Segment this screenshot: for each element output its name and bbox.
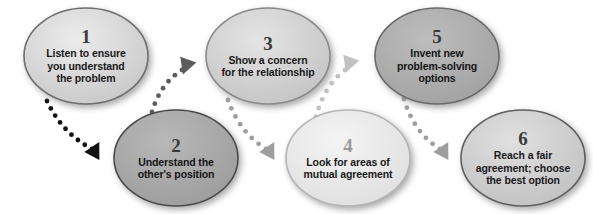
connector-dot	[412, 121, 417, 126]
diagram-canvas	[0, 0, 593, 214]
connector-dot	[249, 136, 254, 141]
connector-dot	[226, 98, 231, 103]
connector-dot	[324, 89, 329, 94]
node-6-ellipse[interactable]	[461, 110, 585, 206]
connector-dot	[233, 114, 238, 119]
arrowhead	[84, 138, 106, 160]
connector-dot	[238, 122, 243, 127]
connector-dot	[320, 97, 325, 102]
connector-1-2	[45, 99, 107, 160]
node-1-ellipse[interactable]	[24, 8, 148, 104]
connector-dot	[166, 79, 171, 84]
connector-dot	[229, 106, 234, 111]
node-6[interactable]	[461, 110, 585, 206]
connector-dot	[408, 113, 413, 118]
node-3-ellipse[interactable]	[206, 8, 330, 104]
connector-dot	[172, 73, 177, 78]
arrowhead	[259, 138, 281, 160]
node-4[interactable]	[286, 110, 410, 206]
arrowhead	[433, 138, 455, 160]
connector-dot	[336, 74, 341, 79]
connector-dot	[404, 105, 409, 110]
connector-dot	[58, 120, 63, 125]
process-diagram: 1Listen to ensureyou understandthe probl…	[0, 0, 593, 214]
connector-dot	[53, 113, 58, 118]
connector-dot	[418, 129, 423, 134]
connector-dot	[48, 106, 53, 111]
node-5-ellipse[interactable]	[375, 8, 499, 104]
node-3[interactable]	[206, 8, 330, 104]
node-4-ellipse[interactable]	[286, 110, 410, 206]
nodes-layer	[24, 8, 585, 206]
node-1[interactable]	[24, 8, 148, 104]
connector-dot	[156, 93, 161, 98]
connector-dot	[256, 141, 261, 146]
connector-dot	[430, 141, 435, 146]
connector-dot	[152, 101, 157, 106]
arrowhead	[175, 57, 196, 78]
connector-dot	[69, 132, 74, 137]
connector-dot	[316, 106, 321, 111]
node-2-ellipse[interactable]	[114, 110, 238, 206]
connector-dot	[82, 142, 87, 147]
node-5[interactable]	[375, 8, 499, 104]
connector-dot	[63, 126, 68, 131]
connector-dot	[243, 129, 248, 134]
arrowhead	[338, 55, 359, 76]
connector-2-3	[150, 57, 197, 115]
node-2[interactable]	[114, 110, 238, 206]
connector-dot	[161, 86, 166, 91]
connector-dot	[76, 138, 81, 143]
connector-dot	[424, 135, 429, 140]
connector-dot	[329, 81, 334, 86]
connector-dot	[45, 99, 50, 104]
